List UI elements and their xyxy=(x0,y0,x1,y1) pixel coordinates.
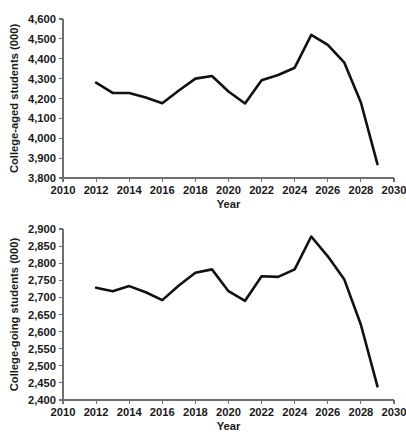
college-aged-y-tick-label: 3,800 xyxy=(28,172,56,184)
college-aged-x-tick-label: 2014 xyxy=(117,184,143,196)
college-aged-x-tick-label: 2016 xyxy=(150,184,175,196)
college-going-y-tick-label: 2,550 xyxy=(28,343,56,355)
college-going-x-tick-label: 2016 xyxy=(150,406,175,418)
college-going-y-tick-label: 2,800 xyxy=(28,257,56,269)
college-aged-x-tick-label: 2022 xyxy=(249,184,274,196)
college-going-y-tick-label: 2,650 xyxy=(28,309,56,321)
college-going-x-tick-label: 2012 xyxy=(84,406,109,418)
college-aged-x-tick-label: 2020 xyxy=(216,184,241,196)
college-going-x-tick-label: 2030 xyxy=(382,406,406,418)
college-going-y-tick-label: 2,450 xyxy=(28,377,56,389)
college-aged-y-axis-title: College-aged students (000) xyxy=(8,24,20,173)
college-aged-y-tick-label: 3,900 xyxy=(28,152,56,164)
college-going-y-tick-label: 2,900 xyxy=(28,223,56,235)
college-aged-x-tick-label: 2030 xyxy=(382,184,406,196)
college-aged-y-tick-label: 4,400 xyxy=(28,53,56,65)
college-going-students-chart: 2,4002,4502,5002,5502,6002,6502,7002,750… xyxy=(0,210,406,432)
college-aged-y-tick-label: 4,600 xyxy=(28,13,56,25)
college-aged-x-tick-label: 2010 xyxy=(51,184,76,196)
college-going-data-line xyxy=(96,237,377,387)
college-going-y-axis-title: College-going students (000) xyxy=(8,237,20,391)
college-aged-x-tick-label: 2028 xyxy=(348,184,373,196)
college-aged-y-tick-label: 4,100 xyxy=(28,112,56,124)
college-aged-x-axis-title: Year xyxy=(217,198,241,210)
college-going-plot: 2,4002,4502,5002,5502,6002,6502,7002,750… xyxy=(0,210,406,432)
college-going-x-tick-label: 2014 xyxy=(117,406,143,418)
college-going-y-tick-label: 2,400 xyxy=(28,394,56,406)
college-aged-plot: 3,8003,9004,0004,1004,2004,3004,4004,500… xyxy=(0,0,406,210)
college-going-x-tick-label: 2024 xyxy=(282,406,308,418)
college-aged-data-line xyxy=(96,35,377,164)
college-aged-y-tick-label: 4,000 xyxy=(28,132,56,144)
college-aged-x-tick-label: 2024 xyxy=(282,184,308,196)
college-going-y-tick-label: 2,750 xyxy=(28,274,56,286)
college-aged-students-chart: 3,8003,9004,0004,1004,2004,3004,4004,500… xyxy=(0,0,406,210)
college-going-y-tick-label: 2,850 xyxy=(28,240,56,252)
college-going-y-tick-label: 2,600 xyxy=(28,326,56,338)
college-going-x-tick-label: 2020 xyxy=(216,406,241,418)
college-aged-x-tick-label: 2026 xyxy=(315,184,340,196)
college-going-x-axis-title: Year xyxy=(217,420,241,432)
college-aged-y-tick-label: 4,300 xyxy=(28,73,56,85)
college-aged-x-tick-label: 2018 xyxy=(183,184,208,196)
college-aged-y-tick-label: 4,200 xyxy=(28,93,56,105)
college-aged-x-tick-label: 2012 xyxy=(84,184,109,196)
college-going-x-tick-label: 2022 xyxy=(249,406,274,418)
college-going-x-tick-label: 2028 xyxy=(348,406,373,418)
college-going-x-tick-label: 2026 xyxy=(315,406,340,418)
college-going-x-tick-label: 2010 xyxy=(51,406,76,418)
college-going-x-tick-label: 2018 xyxy=(183,406,208,418)
college-going-y-tick-label: 2,500 xyxy=(28,360,56,372)
college-aged-y-tick-label: 4,500 xyxy=(28,33,56,45)
college-going-y-tick-label: 2,700 xyxy=(28,291,56,303)
